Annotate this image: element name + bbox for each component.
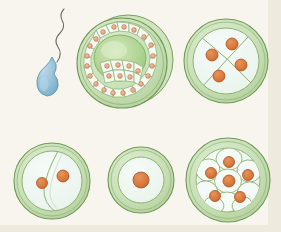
four-cell-stage — [184, 19, 268, 103]
zygote — [108, 147, 174, 213]
right-edge-shading — [268, 0, 281, 232]
sperm-head-highlight — [40, 77, 49, 91]
bottom-edge-shading — [0, 225, 281, 232]
morula — [186, 138, 270, 222]
two-cell-stage — [14, 143, 90, 219]
blastocoel-highlight — [101, 41, 127, 59]
embryo-development-figure — [0, 0, 281, 232]
zygote-nucleus — [133, 172, 149, 188]
